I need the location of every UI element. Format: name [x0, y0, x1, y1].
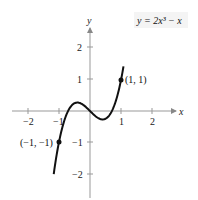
cubic-curve	[54, 66, 124, 174]
x-axis-label: x	[178, 106, 184, 117]
x-tick-label: 2	[150, 116, 155, 127]
point-neg1-neg1	[57, 140, 62, 145]
y-axis-label: y	[86, 15, 92, 26]
point-label-1-1: (1, 1)	[125, 74, 147, 86]
x-tick-label: −2	[23, 116, 34, 127]
equation-label: y = 2x³ − x	[136, 15, 182, 26]
point-1-1	[119, 78, 124, 83]
y-tick-label: −2	[72, 169, 83, 180]
y-tick-label: 2	[77, 42, 82, 53]
x-tick-label: 1	[119, 116, 124, 127]
y-tick-label: −1	[72, 137, 83, 148]
point-label-neg1-neg1: (−1, −1)	[20, 137, 53, 149]
y-tick-label: 1	[77, 74, 82, 85]
cubic-function-graph: x y −2 −1 1 2 2 1 −1 −2 (1, 1) (−1, −1) …	[0, 0, 198, 200]
